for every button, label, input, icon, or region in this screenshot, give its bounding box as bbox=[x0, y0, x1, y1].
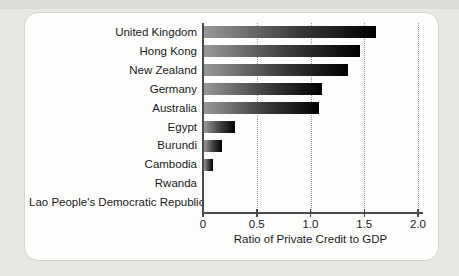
x-tick-label: 1.0 bbox=[294, 218, 328, 230]
category-label: Australia bbox=[29, 99, 197, 118]
x-tick-label: 0.5 bbox=[240, 218, 274, 230]
screen: Ratio of Private Credit to GDP United Ki… bbox=[0, 0, 459, 276]
x-tick-label: 1.5 bbox=[347, 218, 381, 230]
bar bbox=[204, 45, 360, 57]
bar bbox=[204, 140, 222, 152]
background-strip bbox=[0, 0, 459, 9]
x-axis-line bbox=[202, 212, 423, 214]
gridline bbox=[418, 23, 419, 212]
plot-area: Ratio of Private Credit to GDP United Ki… bbox=[25, 13, 438, 260]
category-label: Egypt bbox=[29, 118, 197, 137]
category-label: Hong Kong bbox=[29, 42, 197, 61]
category-label: Rwanda bbox=[29, 174, 197, 193]
category-label: Germany bbox=[29, 80, 197, 99]
y-axis-line bbox=[202, 23, 204, 213]
bar bbox=[204, 64, 348, 76]
x-tick-label: 2.0 bbox=[401, 218, 435, 230]
bar bbox=[204, 83, 322, 95]
x-axis-title: Ratio of Private Credit to GDP bbox=[203, 233, 418, 245]
category-label: Burundi bbox=[29, 136, 197, 155]
bar bbox=[204, 26, 376, 38]
x-tick-label: 0 bbox=[186, 218, 220, 230]
bar bbox=[204, 121, 235, 133]
category-label: United Kingdom bbox=[29, 23, 197, 42]
category-label: New Zealand bbox=[29, 61, 197, 80]
category-label: Cambodia bbox=[29, 155, 197, 174]
gridline bbox=[364, 23, 365, 212]
category-label: Lao People's Democratic Republic bbox=[29, 193, 197, 212]
bar bbox=[204, 159, 213, 171]
bar bbox=[204, 102, 319, 114]
chart-card: Ratio of Private Credit to GDP United Ki… bbox=[24, 12, 439, 261]
